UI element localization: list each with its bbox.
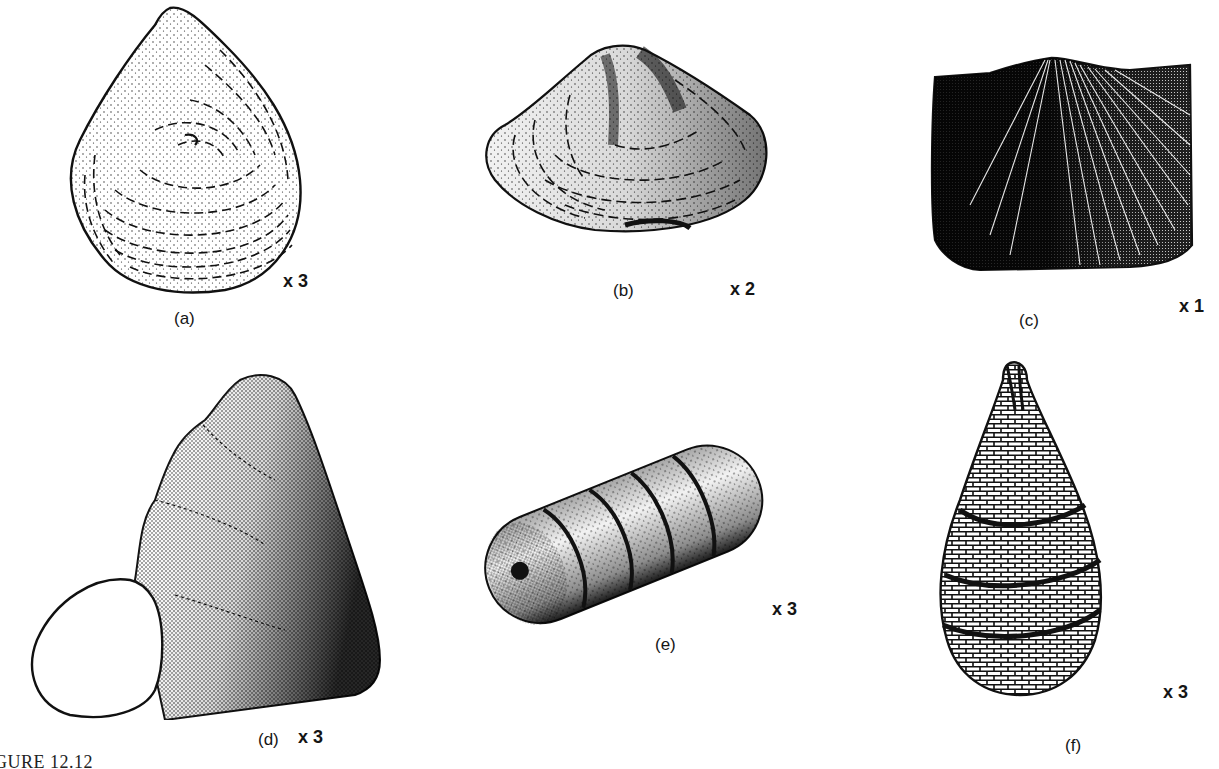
fossil-illustration-d (25, 370, 395, 720)
fossil-illustration-e (470, 420, 770, 630)
magnification-a: x 3 (283, 271, 308, 292)
magnification-c: x 1 (1179, 296, 1204, 317)
fossil-illustration-b (475, 40, 775, 240)
panel-label-f: (f) (1065, 736, 1081, 756)
magnification-e: x 3 (772, 599, 797, 620)
fossil-illustration-c (930, 55, 1200, 275)
magnification-f: x 3 (1163, 682, 1188, 703)
magnification-d: x 3 (298, 727, 323, 748)
panel-label-a: (a) (174, 309, 195, 329)
panel-label-e: (e) (655, 635, 676, 655)
panel-label-c: (c) (1019, 311, 1039, 331)
panel-label-d: (d) (258, 730, 279, 750)
fossil-illustration-a (60, 5, 310, 300)
fossil-illustration-f (935, 360, 1110, 700)
magnification-b: x 2 (730, 279, 755, 300)
panel-label-b: (b) (613, 281, 634, 301)
figure-caption: GURE 12.12 (0, 752, 93, 769)
